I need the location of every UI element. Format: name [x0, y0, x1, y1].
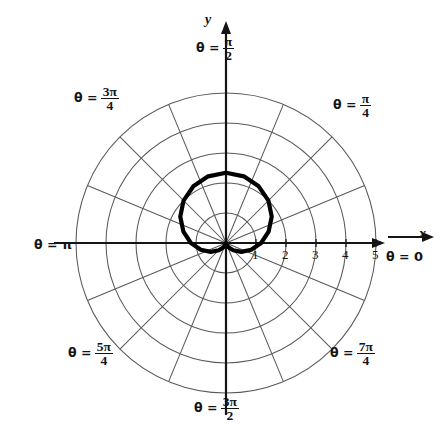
theta-symbol: θ = [68, 345, 91, 360]
theta-pi-over-2-label: θ = π2 [196, 35, 234, 64]
fraction: 5π4 [95, 340, 113, 369]
fraction-numerator: 5π [95, 340, 113, 354]
polar-grid-svg [0, 0, 446, 444]
fraction-numerator: 3π [101, 85, 119, 99]
x-tick-label-3: 3 [312, 247, 319, 263]
fraction-denominator: 4 [101, 98, 119, 113]
fraction-denominator: 2 [223, 48, 234, 63]
fraction: π4 [360, 92, 371, 121]
grid-ray-10 [120, 243, 226, 349]
grid-ray-7 [87, 186, 226, 243]
theta-zero-label: θ = 0 [386, 250, 423, 264]
theta-symbol: θ = [196, 40, 219, 55]
theta-symbol: θ = [386, 249, 409, 264]
theta-symbol: θ = [74, 90, 97, 105]
grid-ray-2 [226, 137, 332, 243]
theta-5pi-over-4-label: θ = 5π4 [68, 340, 113, 369]
fraction-denominator: 4 [357, 353, 375, 368]
angle-value: 0 [409, 249, 423, 264]
fraction-denominator: 4 [360, 105, 371, 120]
fraction: 3π2 [221, 395, 239, 424]
theta-symbol: θ = [34, 237, 57, 252]
polar-plot-figure: y x 12345 θ = 0θ = π4θ = π2θ = 3π4θ = πθ… [0, 0, 446, 444]
y-axis-arrowhead [221, 21, 231, 34]
fraction-denominator: 2 [221, 408, 239, 423]
x-tick-label-5: 5 [372, 247, 379, 263]
fraction-numerator: π [223, 35, 234, 49]
theta-symbol: θ = [330, 345, 353, 360]
y-axis-label: y [205, 12, 211, 28]
grid-ray-6 [120, 137, 226, 243]
fraction: 7π4 [357, 340, 375, 369]
fraction: π2 [223, 35, 234, 64]
theta-pi-over-4-label: θ = π4 [333, 92, 371, 121]
x-tick-label-2: 2 [282, 247, 289, 263]
fraction-numerator: π [360, 92, 371, 106]
theta-7pi-over-4-label: θ = 7π4 [330, 340, 375, 369]
theta-pi-label: θ = π [34, 238, 72, 252]
theta-symbol: θ = [333, 97, 356, 112]
theta-symbol: θ = [194, 400, 217, 415]
fraction-numerator: 3π [221, 395, 239, 409]
grid-ray-11 [169, 243, 226, 382]
x-tick-label-1: 1 [252, 247, 259, 263]
angle-value: π [57, 237, 72, 252]
x-tick-label-4: 4 [342, 247, 349, 263]
x-axis-label: x [419, 226, 426, 242]
grid-ray-13 [226, 243, 283, 382]
fraction-numerator: 7π [357, 340, 375, 354]
theta-3pi-over-2-label: θ = 3π2 [194, 395, 239, 424]
fraction: 3π4 [101, 85, 119, 114]
grid-ray-1 [226, 186, 365, 243]
theta-3pi-over-4-label: θ = 3π4 [74, 85, 119, 114]
fraction-denominator: 4 [95, 353, 113, 368]
